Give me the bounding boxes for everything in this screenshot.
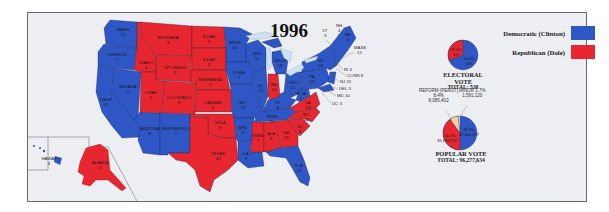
svg-text:MD 10: MD 10 <box>337 93 350 98</box>
svg-text:12: 12 <box>272 87 277 92</box>
popular-vote-caption: POPULAR VOTE TOTAL: 96,277,634 <box>426 151 496 164</box>
svg-text:54: 54 <box>104 102 109 107</box>
svg-text:DC 3: DC 3 <box>332 101 342 106</box>
state-fla[interactable] <box>266 146 310 186</box>
svg-text:13: 13 <box>306 105 311 110</box>
svg-text:4: 4 <box>338 28 341 33</box>
svg-text:11: 11 <box>241 105 246 110</box>
map-title: 1996 <box>270 20 308 42</box>
svg-text:11: 11 <box>255 56 260 61</box>
svg-text:CONN 8: CONN 8 <box>347 73 364 78</box>
svg-text:10: 10 <box>233 45 238 50</box>
svg-text:11: 11 <box>270 119 275 124</box>
reform-perot-label: REFORM (PEROT) 8.4% 8,085,402 <box>419 88 458 104</box>
svg-text:47,402,357: 47,402,357 <box>459 132 480 137</box>
minor-label: MINOR 1.7% 1,591,120 <box>459 88 486 98</box>
svg-text:159: 159 <box>453 52 460 57</box>
svg-text:32: 32 <box>216 156 221 161</box>
svg-text:22: 22 <box>259 88 264 93</box>
popular-vote-pie: 49.2% 47,402,357 40.7% 39,198,755 <box>437 105 480 150</box>
legend-label: Republican (Dole) <box>489 49 565 56</box>
svg-text:11: 11 <box>121 32 126 37</box>
svg-text:DEL 3: DEL 3 <box>339 86 351 91</box>
lake-michigan <box>266 48 272 70</box>
legend-swatch-red <box>571 45 595 59</box>
svg-text:RI 4: RI 4 <box>344 67 352 72</box>
svg-text:18: 18 <box>278 63 283 68</box>
svg-text:23: 23 <box>310 79 315 84</box>
svg-text:4: 4 <box>48 161 51 166</box>
electoral-vote-pie: 29.6% 159 70.4% 379 <box>448 40 478 70</box>
svg-text:NJ 15: NJ 15 <box>340 79 352 84</box>
legend-swatch-blue <box>571 26 595 40</box>
legend-democratic: Democratic (Clinton) <box>489 26 595 40</box>
svg-text:379: 379 <box>466 61 473 66</box>
legend-label: Democratic (Clinton) <box>489 30 565 37</box>
svg-text:21: 21 <box>291 85 296 90</box>
svg-text:14: 14 <box>304 117 309 122</box>
svg-text:3: 3 <box>324 33 327 38</box>
svg-text:33: 33 <box>319 63 324 68</box>
svg-text:12: 12 <box>357 50 362 55</box>
svg-text:39,198,755: 39,198,755 <box>437 138 458 143</box>
svg-text:13: 13 <box>284 135 289 140</box>
svg-text:25: 25 <box>297 168 302 173</box>
legend-republican: Republican (Dole) <box>489 45 595 59</box>
